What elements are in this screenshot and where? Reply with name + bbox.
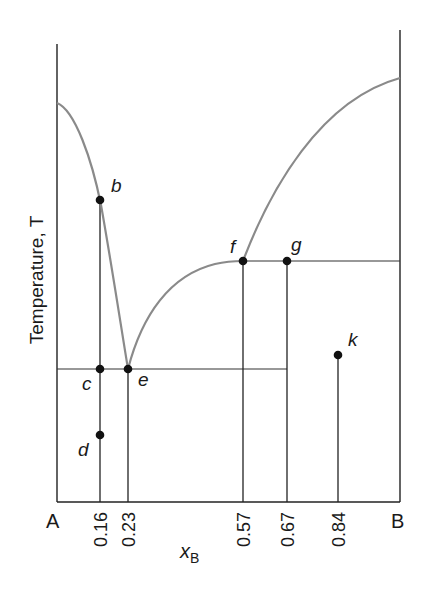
label-e: e [138,369,149,390]
tick-0.67: 0.67 [278,512,298,547]
label-B: B [391,510,404,532]
label-d: d [78,439,90,460]
label-b: b [111,175,122,196]
tick-0.57: 0.57 [234,512,254,547]
point-b [96,196,105,205]
point-c [96,365,105,374]
point-d [96,431,105,440]
liquidus-e-f-curve [128,261,243,369]
point-f [239,257,248,266]
x-axis-label: xB [179,540,199,566]
y-axis-label: Temperature, T [26,215,47,344]
label-A: A [46,510,60,532]
tick-0.16: 0.16 [91,512,111,547]
liquidus-A-curve [57,103,128,369]
label-g: g [291,234,302,255]
point-e [124,365,133,374]
liquidus-f-B-curve [243,78,400,261]
label-c: c [82,373,92,394]
point-g [283,257,292,266]
point-k [334,351,343,360]
label-k: k [348,329,359,350]
label-f: f [230,236,237,257]
tick-0.23: 0.23 [119,512,139,547]
phase-diagram: b c d e f g k Temperature, T A B 0.16 0.… [0,0,427,596]
tick-0.84: 0.84 [329,512,349,547]
